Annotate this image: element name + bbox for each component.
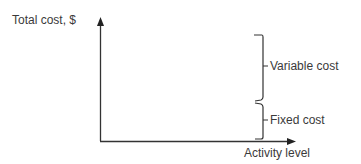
- fixed-cost-brace: [255, 103, 268, 139]
- x-axis-label: Activity level: [244, 146, 310, 160]
- variable-cost-brace: [254, 35, 268, 101]
- y-axis-arrow-icon: [97, 17, 104, 26]
- y-axis-label: Total cost, $: [12, 13, 76, 27]
- variable-cost-label: Variable cost: [270, 59, 338, 73]
- x-axis-arrow-icon: [287, 138, 296, 145]
- fixed-cost-label: Fixed cost: [270, 113, 325, 127]
